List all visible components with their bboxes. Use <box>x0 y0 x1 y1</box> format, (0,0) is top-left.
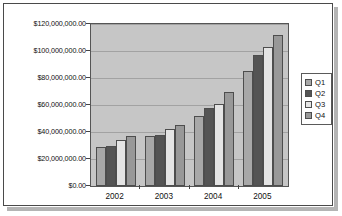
bar-q1-2005[interactable] <box>243 71 253 186</box>
bar-q2-2003[interactable] <box>155 135 165 186</box>
y-tick-label: $0.00 <box>8 181 86 190</box>
bar-q4-2003[interactable] <box>175 125 185 186</box>
legend-swatch-icon <box>305 101 312 108</box>
chart-frame: $0.00$20,000,000.00$40,000,000.00$60,000… <box>3 3 333 206</box>
legend-item-label: Q2 <box>315 89 325 98</box>
x-tick-mark <box>238 185 239 189</box>
bar-q4-2002[interactable] <box>126 136 136 186</box>
legend-swatch-icon <box>305 112 312 119</box>
x-tick-label: 2004 <box>189 192 238 201</box>
chart-drop-shadow-bottom <box>7 207 338 211</box>
bar-q4-2004[interactable] <box>224 92 234 187</box>
bar-group <box>140 24 189 186</box>
bar-group <box>91 24 140 186</box>
x-tick-mark <box>139 185 140 189</box>
y-tick-label: $40,000,000.00 <box>8 127 86 136</box>
legend-item-q4[interactable]: Q4 <box>305 110 329 121</box>
bar-q2-2002[interactable] <box>106 146 116 187</box>
x-tick-label: 2002 <box>90 192 139 201</box>
bar-q3-2003[interactable] <box>165 129 175 186</box>
chart-drop-shadow-right <box>334 7 338 209</box>
legend-item-label: Q4 <box>315 111 325 120</box>
x-tick-label: 2005 <box>238 192 287 201</box>
y-tick-mark <box>86 50 90 51</box>
bar-q2-2004[interactable] <box>204 108 214 186</box>
bar-q1-2002[interactable] <box>96 147 106 186</box>
plot-area <box>90 23 289 187</box>
x-axis: 2002200320042005 <box>90 192 289 206</box>
x-tick-mark <box>189 185 190 189</box>
y-tick-label: $80,000,000.00 <box>8 73 86 82</box>
legend-item-q2[interactable]: Q2 <box>305 88 329 99</box>
bar-q4-2005[interactable] <box>273 35 283 186</box>
bar-group <box>239 24 288 186</box>
x-tick-label: 2003 <box>139 192 188 201</box>
y-tick-label: $20,000,000.00 <box>8 154 86 163</box>
legend-item-label: Q3 <box>315 100 325 109</box>
bar-q2-2005[interactable] <box>253 55 263 186</box>
legend-item-q1[interactable]: Q1 <box>305 77 329 88</box>
bar-q1-2004[interactable] <box>194 116 204 186</box>
legend-item-q3[interactable]: Q3 <box>305 99 329 110</box>
bar-q1-2003[interactable] <box>145 136 155 186</box>
legend-item-label: Q1 <box>315 78 325 87</box>
chart-legend: Q1Q2Q3Q4 <box>301 73 332 125</box>
y-tick-mark <box>86 23 90 24</box>
bar-q3-2002[interactable] <box>116 140 126 186</box>
y-tick-mark <box>86 104 90 105</box>
y-tick-mark <box>86 158 90 159</box>
y-tick-label: $120,000,000.00 <box>8 19 86 28</box>
y-axis: $0.00$20,000,000.00$40,000,000.00$60,000… <box>8 17 86 191</box>
y-tick-mark <box>86 77 90 78</box>
y-tick-mark <box>86 185 90 186</box>
bar-q3-2004[interactable] <box>214 104 224 186</box>
legend-swatch-icon <box>305 79 312 86</box>
bar-group <box>190 24 239 186</box>
y-tick-label: $100,000,000.00 <box>8 46 86 55</box>
y-tick-label: $60,000,000.00 <box>8 100 86 109</box>
bar-q3-2005[interactable] <box>263 47 273 186</box>
y-tick-mark <box>86 131 90 132</box>
legend-swatch-icon <box>305 90 312 97</box>
